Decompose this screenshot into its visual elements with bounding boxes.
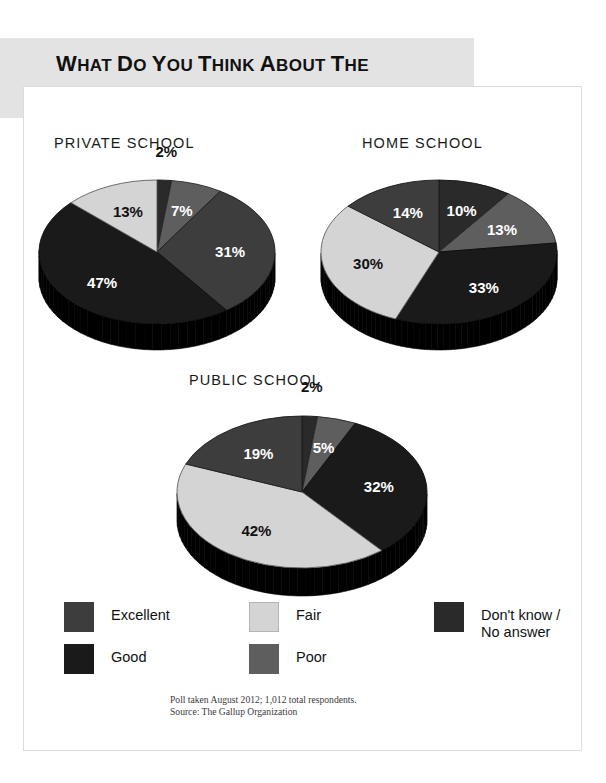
- source-note: Poll taken August 2012; 1,012 total resp…: [170, 694, 357, 718]
- pie-slice-label: 2%: [301, 378, 323, 395]
- source-note-line-1: Poll taken August 2012; 1,012 total resp…: [170, 694, 357, 706]
- chart-panel: PRIVATE SCHOOL 2%7%31%47%13% HOME SCHOOL…: [23, 86, 582, 751]
- legend-item-dont-know: Don't know / No answer: [434, 602, 560, 638]
- legend-item-poor: Poor: [249, 644, 327, 680]
- pie-graphic-home-school: 10%13%33%30%14%: [314, 157, 563, 358]
- pie-slice-label: 13%: [113, 203, 143, 220]
- legend-label-excellent: Excellent: [111, 602, 170, 624]
- legend-swatch-excellent: [64, 602, 94, 632]
- legend-label-fair: Fair: [296, 602, 321, 624]
- legend-label-good: Good: [111, 644, 146, 666]
- pie-title-home-school: HOME SCHOOL: [362, 135, 483, 151]
- chart-legend: Excellent Good Fair Poor Don't know / No…: [64, 602, 564, 677]
- pie-graphic-public-school: 2%5%32%42%19%: [169, 394, 433, 604]
- pie-slice-label: 33%: [469, 279, 499, 296]
- source-note-line-2: Source: The Gallup Organization: [170, 706, 357, 718]
- legend-swatch-poor: [249, 644, 279, 674]
- page-title-line-1: WHAT DO YOU THINK ABOUT THE: [56, 49, 474, 81]
- pie-slice-label: 31%: [215, 242, 245, 259]
- pie-slice-label: 14%: [393, 203, 423, 220]
- legend-swatch-dont-know: [434, 602, 464, 632]
- legend-item-fair: Fair: [249, 602, 327, 638]
- pie-slice-label: 30%: [353, 255, 383, 272]
- pie-chart-private-school: PRIVATE SCHOOL 2%7%31%47%13%: [32, 135, 292, 355]
- legend-column-3: Don't know / No answer: [434, 602, 560, 644]
- pie-slice-label: 19%: [243, 445, 273, 462]
- pie-slice-label: 5%: [313, 438, 335, 455]
- pie-chart-public-school: PUBLIC SCHOOL 2%5%32%42%19%: [169, 372, 439, 597]
- legend-label-poor: Poor: [296, 644, 327, 666]
- pie-slice-label: 32%: [364, 478, 394, 495]
- pie-slice-label: 42%: [241, 522, 271, 539]
- legend-column-1: Excellent Good: [64, 602, 170, 686]
- legend-swatch-fair: [249, 602, 279, 632]
- legend-item-good: Good: [64, 644, 170, 680]
- pie-slice-label: 13%: [487, 221, 517, 238]
- pie-chart-home-school: HOME SCHOOL 10%13%33%30%14%: [314, 135, 574, 355]
- title-text-1: WHAT DO YOU THINK ABOUT THE: [56, 57, 369, 74]
- legend-column-2: Fair Poor: [249, 602, 327, 686]
- pie-slice-label: 2%: [155, 143, 177, 160]
- legend-swatch-good: [64, 644, 94, 674]
- pie-slice-label: 7%: [171, 201, 193, 218]
- pie-graphic-private-school: 2%7%31%47%13%: [32, 157, 281, 358]
- legend-item-excellent: Excellent: [64, 602, 170, 638]
- pie-slice-label: 10%: [447, 201, 477, 218]
- pie-slice-label: 47%: [87, 273, 117, 290]
- legend-label-dont-know: Don't know / No answer: [481, 602, 560, 641]
